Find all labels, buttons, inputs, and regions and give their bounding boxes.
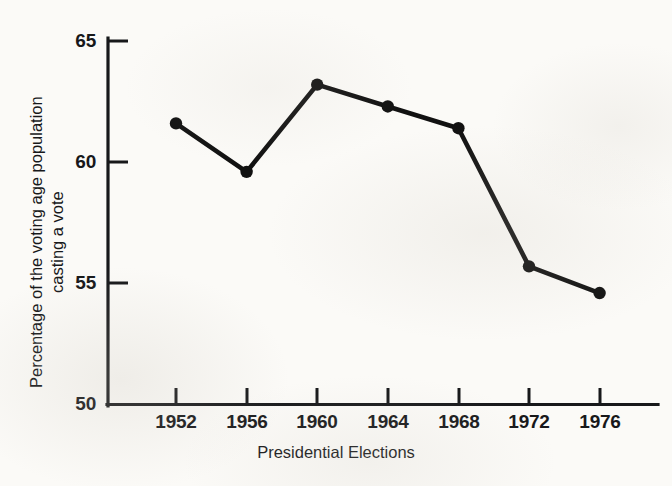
line-chart-figure: 65 60 55 50 1952 1956 1960 1964 1968 197… [0,0,672,486]
data-point-1968 [452,122,464,134]
x-tick-label-1976: 1976 [579,411,620,433]
x-tick-label-1968: 1968 [438,411,479,433]
x-axis-title: Presidential Elections [257,443,415,462]
data-point-markers [170,78,606,299]
y-tick-label-50: 50 [62,393,96,415]
data-series-line [176,85,600,293]
x-axis-ticks [176,388,600,404]
x-tick-label-1972: 1972 [508,411,549,433]
x-tick-label-1956: 1956 [226,411,267,433]
data-point-1976 [593,287,605,299]
data-point-1952 [170,117,182,129]
y-axis-ticks [108,41,128,283]
y-axis-title: Percentage of the voting age population … [26,96,68,388]
data-point-1960 [311,78,323,90]
y-axis-title-line-1: Percentage of the voting age population [26,96,47,388]
data-point-1972 [523,260,535,272]
y-tick-label-65: 65 [62,30,96,52]
x-tick-label-1952: 1952 [155,411,196,433]
data-point-1956 [240,166,252,178]
y-axis-title-line-2: casting a vote [47,96,68,388]
x-tick-label-1960: 1960 [296,411,337,433]
x-tick-label-1964: 1964 [367,411,408,433]
data-point-1964 [382,100,394,112]
